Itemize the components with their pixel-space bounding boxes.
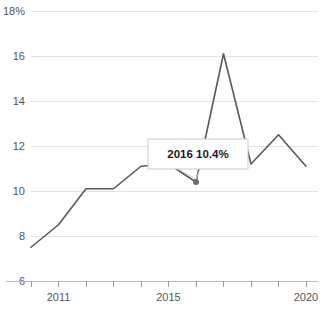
chart-canvas: 681012141618% 201120152020 2016 10.4% — [0, 0, 324, 313]
annotation-tooltip[interactable]: 2016 10.4% — [148, 139, 248, 179]
x-axis-labels: 201120152020 — [47, 291, 319, 303]
data-point-marker-2016[interactable] — [193, 179, 199, 185]
tooltip-label: 2016 10.4% — [167, 148, 228, 160]
y-tick-label-14: 14 — [13, 95, 25, 107]
line-chart: 681012141618% 201120152020 2016 10.4% — [0, 0, 324, 313]
y-tick-label-10: 10 — [13, 185, 25, 197]
y-tick-label-12: 12 — [13, 140, 25, 152]
y-tick-label-16: 16 — [13, 50, 25, 62]
x-tick-label-2015: 2015 — [156, 291, 180, 303]
y-tick-label-8: 8 — [19, 230, 25, 242]
x-axis — [6, 281, 318, 287]
x-tick-label-2020: 2020 — [294, 291, 318, 303]
y-tick-label-18: 18% — [3, 5, 25, 17]
y-axis-labels: 681012141618% — [3, 5, 25, 287]
x-tick-label-2011: 2011 — [47, 291, 71, 303]
